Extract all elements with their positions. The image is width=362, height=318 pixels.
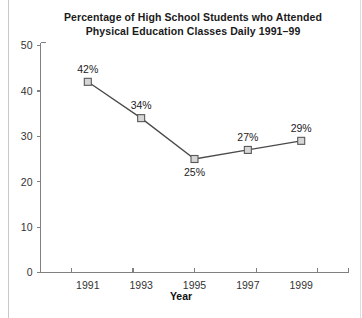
data-point-marker (244, 146, 251, 153)
data-point-label: 25% (184, 166, 205, 178)
x-tick-label: 1999 (290, 279, 314, 291)
data-point-marker (84, 78, 91, 85)
data-point-markers (84, 78, 304, 162)
data-point-label: 42% (77, 63, 98, 75)
data-point-marker (138, 115, 145, 122)
data-point-marker (298, 137, 305, 144)
data-point-marker (191, 156, 198, 163)
x-tick-label: 1991 (76, 279, 100, 291)
chart-plot-area: 01020304050 19911993199519971999 42%34%2… (0, 0, 362, 318)
data-series-line (88, 82, 301, 159)
x-axis: 19911993199519971999 (41, 268, 349, 291)
y-tick-label: 20 (21, 176, 33, 188)
y-tick-label: 10 (21, 221, 33, 233)
y-tick-label: 30 (21, 130, 33, 142)
series-polyline (88, 82, 301, 159)
x-tick-label: 1995 (183, 279, 207, 291)
data-point-label: 29% (291, 122, 312, 134)
y-tick-label: 40 (21, 85, 33, 97)
data-point-label: 34% (131, 99, 152, 111)
chart-container: Percentage of High School Students who A… (0, 0, 362, 318)
y-tick-label: 50 (21, 39, 33, 51)
x-tick-label: 1993 (129, 279, 153, 291)
x-axis-title: Year (0, 290, 362, 302)
x-tick-label: 1997 (236, 279, 260, 291)
y-tick-label: 0 (27, 266, 33, 278)
y-axis: 01020304050 (21, 39, 46, 278)
data-point-label: 27% (237, 131, 258, 143)
